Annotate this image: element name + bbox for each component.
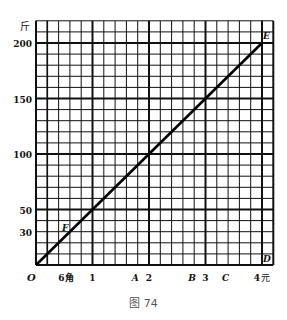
x-axis-unit: 元 <box>261 273 270 283</box>
point-label-f: F <box>61 223 69 233</box>
y-tick-label: 150 <box>13 95 32 105</box>
point-label-b: B <box>187 273 196 283</box>
point-label-c: C <box>222 273 230 283</box>
y-tick-label: 100 <box>13 150 32 160</box>
x-tick-label: 1 <box>89 273 95 283</box>
point-label-e: E <box>262 31 270 41</box>
y-axis-unit: 斤 <box>20 21 30 32</box>
x-tick-label: 6角 <box>58 272 73 283</box>
line-chart: 3050100150200斤6角1234元OEFDABC <box>0 0 287 320</box>
y-tick-label: 200 <box>13 39 32 49</box>
point-label-a: A <box>131 273 139 283</box>
y-tick-label: 30 <box>19 228 32 238</box>
x-tick-label: 4 <box>254 273 260 283</box>
x-tick-label: 2 <box>146 273 152 283</box>
point-label-d: D <box>262 254 271 264</box>
y-tick-label: 50 <box>19 206 32 216</box>
origin-label: O <box>27 272 36 283</box>
x-tick-label: 3 <box>202 273 208 283</box>
chart-labels: 3050100150200斤6角1234元OEFDABC <box>13 21 271 283</box>
figure-caption: 图 74 <box>0 294 287 310</box>
